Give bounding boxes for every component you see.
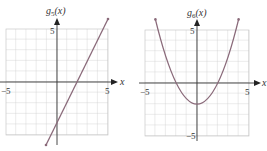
x-axis-label: x xyxy=(119,76,125,87)
x-min-label: −5 xyxy=(1,86,11,96)
g5-title: g5(x) xyxy=(46,5,66,18)
graph-g6: g6(x) x −5 5 5 −5 xyxy=(139,7,267,141)
y-max-label: 5 xyxy=(190,26,195,36)
x-axis-arrow-icon xyxy=(111,79,118,85)
x-axis-arrow-icon xyxy=(254,80,261,86)
graph-g5: g5(x) x −5 5 5 xyxy=(0,5,125,146)
y-axis-arrow-icon xyxy=(194,19,200,26)
y-min-label: −5 xyxy=(186,131,196,141)
graphs-figure: g5(x) x −5 5 5 g6(x) x −5 5 5 −5 xyxy=(0,0,267,151)
x-max-label: 5 xyxy=(105,86,110,96)
g6-title: g6(x) xyxy=(187,7,207,20)
x-min-label: −5 xyxy=(140,87,150,97)
y-max-label: 5 xyxy=(50,26,55,36)
x-axis-label: x xyxy=(261,77,267,88)
y-axis-arrow-icon xyxy=(54,18,60,25)
x-max-label: 5 xyxy=(245,87,250,97)
